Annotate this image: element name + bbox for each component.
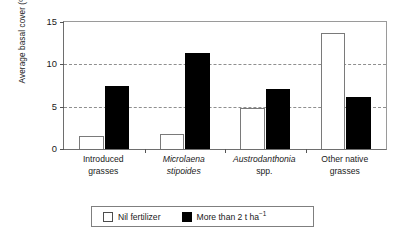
legend-entry-more-than-2t: More than 2 t ha−1 xyxy=(182,212,267,222)
y-tick-label-15: 15 xyxy=(47,17,57,26)
legend-label-more-than-2t: More than 2 t ha−1 xyxy=(197,212,267,222)
bar-nil-fertilizer-0 xyxy=(79,136,103,149)
bar-more-than-2t-2 xyxy=(266,89,290,149)
x-group-label-3-line1: Other native xyxy=(321,154,368,164)
bar-nil-fertilizer-2 xyxy=(240,108,264,149)
x-group-separator-1 xyxy=(145,149,146,153)
y-tick-label-5: 5 xyxy=(52,102,57,111)
x-group-label-0: Introduced grasses xyxy=(63,154,144,177)
y-tick-label-0: 0 xyxy=(52,144,57,153)
x-group-label-0-line1: Introduced xyxy=(83,154,124,164)
x-group-separator-2 xyxy=(225,149,226,153)
legend-entry-nil-fertilizer: Nil fertilizer xyxy=(103,212,161,222)
plot-area: 0 5 10 15 xyxy=(63,21,387,150)
bar-chart-figure: Average basal cover (%) 0 5 10 15 Introd… xyxy=(0,0,410,243)
y-tick-mark-0 xyxy=(60,149,64,150)
bars-layer xyxy=(64,22,386,149)
x-group-label-2-line1: Austrodanthonia xyxy=(233,154,296,164)
x-group-label-2-line2: spp. xyxy=(224,166,305,178)
legend-label-more-than-2t-text: More than 2 t ha xyxy=(197,212,260,222)
legend-swatch-more-than-2t xyxy=(182,212,192,222)
x-group-label-3-line2: grasses xyxy=(305,166,386,178)
bar-more-than-2t-0 xyxy=(105,86,129,150)
x-group-label-0-line2: grasses xyxy=(63,166,144,178)
x-group-label-3: Other native grasses xyxy=(305,154,386,177)
legend-label-more-than-2t-exponent: −1 xyxy=(259,210,266,217)
y-axis-title: Average basal cover (%) xyxy=(18,0,27,108)
x-group-label-1: Microlaena stipoides xyxy=(144,154,225,177)
bar-nil-fertilizer-3 xyxy=(321,33,345,149)
legend-label-nil-fertilizer: Nil fertilizer xyxy=(118,212,161,222)
bar-more-than-2t-3 xyxy=(346,97,370,149)
x-group-label-1-line1: Microlaena xyxy=(163,154,205,164)
x-group-separator-3 xyxy=(306,149,307,153)
legend: Nil fertilizer More than 2 t ha−1 xyxy=(91,206,314,227)
legend-swatch-nil-fertilizer xyxy=(103,212,113,222)
bar-nil-fertilizer-1 xyxy=(160,134,184,149)
x-group-label-2: Austrodanthonia spp. xyxy=(224,154,305,177)
y-tick-label-10: 10 xyxy=(47,60,57,69)
bar-more-than-2t-1 xyxy=(185,53,209,149)
x-group-label-1-line2: stipoides xyxy=(144,166,225,178)
